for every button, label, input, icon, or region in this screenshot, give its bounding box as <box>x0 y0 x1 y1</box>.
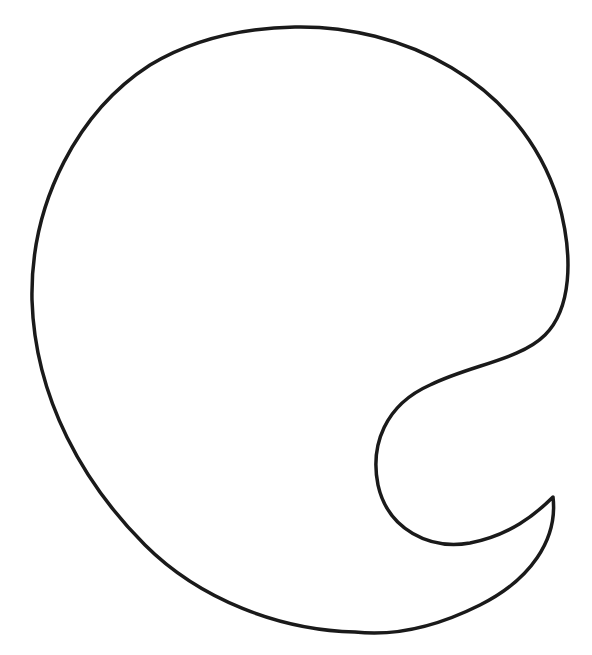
drawing-canvas <box>0 0 592 655</box>
blob-outline <box>32 27 568 633</box>
blob-shape-drawing <box>0 0 592 655</box>
